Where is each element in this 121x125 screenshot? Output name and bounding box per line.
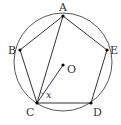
point-o	[61, 63, 64, 66]
point-a	[61, 14, 64, 17]
label-e: E	[110, 44, 118, 57]
label-d: D	[93, 106, 102, 119]
label-a: A	[58, 1, 68, 14]
point-d	[89, 101, 92, 104]
label-o: O	[67, 63, 76, 76]
angle-x-arc	[40, 93, 44, 94]
point-c	[35, 101, 38, 104]
point-b	[18, 48, 21, 51]
label-angle-x: x	[46, 89, 52, 100]
point-e	[105, 48, 108, 51]
pentagon-abcde	[20, 16, 107, 103]
pentagon-circle-diagram: A B C D E O x	[0, 0, 121, 125]
circumcircle	[14, 13, 112, 111]
label-b: B	[8, 44, 16, 57]
label-c: C	[26, 106, 34, 119]
